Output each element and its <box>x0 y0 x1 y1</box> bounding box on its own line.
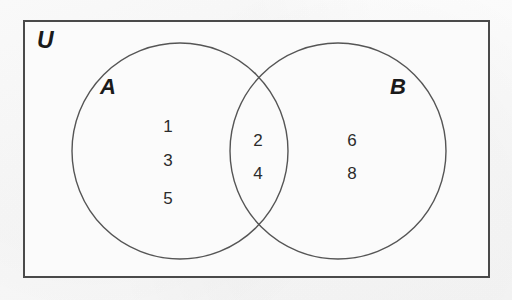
element-b-only-1: 6 <box>341 132 363 149</box>
element-b-only-2: 8 <box>341 165 363 182</box>
venn-diagram-page: U A B 1 3 5 2 4 6 8 <box>0 0 512 300</box>
element-a-only-1: 1 <box>157 118 179 135</box>
universal-set-label: U <box>37 29 54 52</box>
set-b-label: B <box>390 76 406 98</box>
element-intersection-1: 2 <box>247 132 269 149</box>
element-intersection-2: 4 <box>247 165 269 182</box>
element-a-only-3: 5 <box>157 190 179 207</box>
set-a-label: A <box>100 76 116 98</box>
element-a-only-2: 3 <box>157 152 179 169</box>
set-b-circle <box>230 43 446 259</box>
venn-circles-svg <box>0 0 512 300</box>
